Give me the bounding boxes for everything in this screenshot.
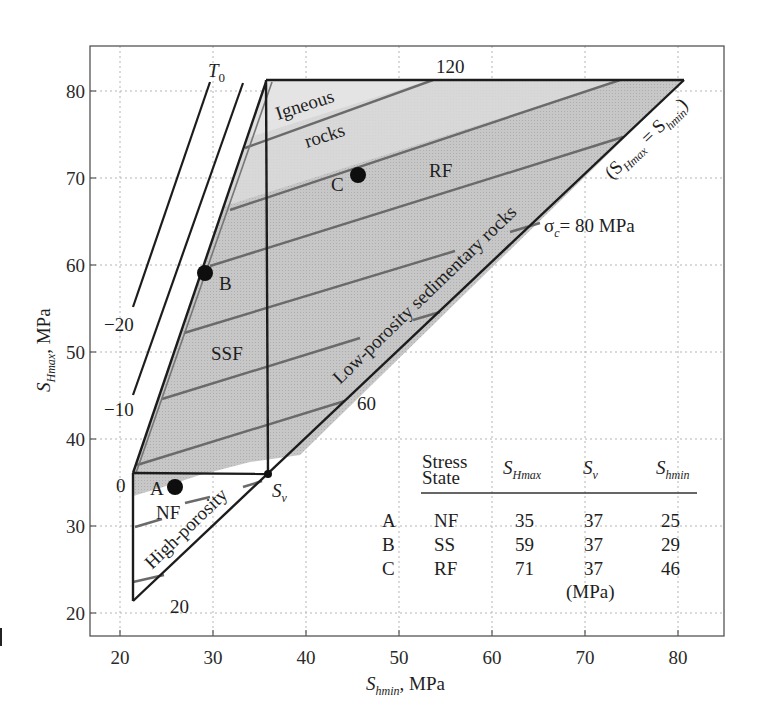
- table-header-state: State: [422, 467, 460, 488]
- table-row-b-id: B: [382, 534, 395, 555]
- x-tick: 70: [576, 647, 595, 668]
- nf-label: NF: [156, 502, 180, 523]
- table-row-a-state: NF: [434, 510, 458, 531]
- point-a-label: A: [150, 478, 164, 499]
- x-tick-labels: 20 30 40 50 60 70 80: [111, 647, 688, 668]
- contour-60-label: 60: [357, 393, 376, 414]
- rf-label: RF: [429, 160, 452, 181]
- y-tick: 30: [66, 516, 85, 537]
- contour-20-label: 20: [170, 596, 189, 617]
- y-tick-labels: 80 70 60 50 40 30 20: [66, 81, 85, 624]
- margin-mark: [0, 628, 2, 646]
- sigma-c-80-label: σc= 80 MPa: [544, 215, 635, 240]
- x-axis-label: Shmin, MPa: [366, 673, 445, 698]
- x-tick: 50: [390, 647, 409, 668]
- table-row-c-state: RF: [434, 558, 457, 579]
- x-tick: 20: [111, 647, 130, 668]
- table-row-c-shmin: 46: [661, 558, 680, 579]
- stress-state-table: Stress State SHmax Sv Shmin A NF 35 37 2…: [382, 451, 697, 603]
- y-axis-label: SHmax, MPa: [33, 308, 58, 392]
- table-row-a-shmax: 35: [515, 510, 534, 531]
- table-row-c-shmax: 71: [515, 558, 534, 579]
- table-header-sv: Sv: [583, 457, 599, 482]
- sv-point-marker: [264, 470, 272, 478]
- table-row-c-id: C: [382, 558, 395, 579]
- point-c-label: C: [331, 174, 344, 195]
- t0-minus10-label: −10: [104, 399, 134, 420]
- t0-label: T0: [208, 60, 225, 85]
- table-row-a-sv: 37: [584, 510, 603, 531]
- shaded-regions: [133, 80, 684, 496]
- ssf-label: SSF: [211, 343, 243, 364]
- x-tick: 30: [204, 647, 223, 668]
- table-row-a-id: A: [382, 510, 396, 531]
- x-tick: 40: [297, 647, 316, 668]
- table-row-b-shmin: 29: [661, 534, 680, 555]
- table-row-a-shmin: 25: [661, 510, 680, 531]
- stress-polygon-chart: 20 30 40 50 60 70 80 80 70 60 50 40 30 2…: [0, 0, 765, 721]
- table-row-b-sv: 37: [584, 534, 603, 555]
- point-b-label: B: [219, 273, 232, 294]
- table-row-b-shmax: 59: [515, 534, 534, 555]
- sv-label: Sv: [272, 480, 288, 505]
- point-b-marker: [197, 265, 213, 281]
- table-row-c-sv: 37: [584, 558, 603, 579]
- t0-zero-label: 0: [116, 475, 126, 496]
- y-tick: 50: [66, 342, 85, 363]
- y-tick: 80: [66, 81, 85, 102]
- x-tick: 60: [483, 647, 502, 668]
- table-header-shmin: Shmin: [656, 457, 690, 482]
- table-units: (MPa): [566, 581, 615, 603]
- y-tick: 40: [66, 429, 85, 450]
- table-header-shmax: SHmax: [503, 457, 542, 482]
- table-row-b-state: SS: [434, 534, 455, 555]
- point-c-marker: [350, 167, 366, 183]
- t0-minus20-label: −20: [104, 314, 134, 335]
- y-tick: 70: [66, 168, 85, 189]
- contour-120-label: 120: [436, 56, 465, 77]
- y-tick: 20: [66, 603, 85, 624]
- point-a-marker: [167, 479, 183, 495]
- y-tick: 60: [66, 255, 85, 276]
- x-tick: 80: [669, 647, 688, 668]
